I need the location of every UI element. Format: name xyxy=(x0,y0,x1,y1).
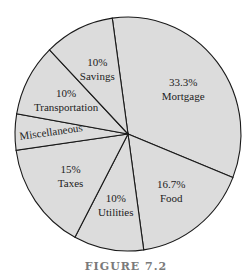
slice-category-label: Transportation xyxy=(34,101,99,113)
pie-chart: 33.3%Mortgage16.7%Food10%Utilities15%Tax… xyxy=(0,0,252,260)
slice-percent-label: 10% xyxy=(106,192,126,204)
slice-percent-label: 10% xyxy=(56,87,76,99)
slice-category-label: Taxes xyxy=(58,177,84,189)
figure-caption: FIGURE 7.2 xyxy=(0,260,252,273)
slice-percent-label: 10% xyxy=(87,56,107,68)
slice-percent-label: 33.3% xyxy=(169,76,197,88)
slice-category-label: Mortgage xyxy=(162,90,205,102)
slice-category-label: Utilities xyxy=(98,206,133,218)
slice-category-label: Food xyxy=(160,192,183,204)
slice-percent-label: 15% xyxy=(61,163,81,175)
slice-percent-label: 16.7% xyxy=(157,178,185,190)
slice-category-label: Savings xyxy=(80,70,115,82)
